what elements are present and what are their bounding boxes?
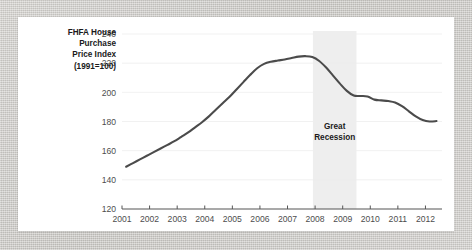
y-tick-label: 200 bbox=[102, 88, 117, 98]
x-tick-label: 2005 bbox=[223, 214, 242, 224]
x-axis-tick-labels: 2001200220032004200520062007200820092010… bbox=[112, 214, 435, 224]
x-tick-label: 2003 bbox=[168, 214, 187, 224]
y-tick-label: 140 bbox=[102, 175, 117, 185]
y-axis-title-line: Purchase bbox=[79, 39, 116, 48]
y-tick-label: 120 bbox=[102, 204, 117, 214]
chart-card: 120140160180200220240 200120022003200420… bbox=[18, 17, 454, 231]
screenshot-root: 120140160180200220240 200120022003200420… bbox=[0, 0, 472, 250]
y-tick-label: 160 bbox=[102, 146, 117, 156]
chart-plot-area: 120140160180200220240 200120022003200420… bbox=[18, 17, 454, 231]
x-tick-label: 2004 bbox=[195, 214, 214, 224]
y-axis-title: FHFA HousePurchasePrice Index(1991=100) bbox=[68, 28, 117, 71]
recession-label-line: Great bbox=[324, 122, 346, 131]
x-tick-label: 2009 bbox=[333, 214, 352, 224]
recession-band-group bbox=[313, 31, 357, 209]
x-tick-label: 2008 bbox=[306, 214, 325, 224]
index-series-line bbox=[126, 56, 436, 167]
recession-label-line: Recession bbox=[314, 133, 355, 142]
y-axis-title-line: Price Index bbox=[72, 50, 116, 59]
x-tick-label: 2012 bbox=[416, 214, 435, 224]
x-tick-label: 2002 bbox=[140, 214, 159, 224]
line-chart: 120140160180200220240 200120022003200420… bbox=[18, 17, 454, 231]
y-tick-label: 180 bbox=[102, 117, 117, 127]
x-tick-label: 2010 bbox=[361, 214, 380, 224]
x-tick-label: 2011 bbox=[389, 214, 408, 224]
x-tick-label: 2006 bbox=[250, 214, 269, 224]
gridlines-group bbox=[122, 34, 442, 180]
y-axis-title-line: FHFA House bbox=[68, 28, 117, 37]
y-axis-title-line: (1991=100) bbox=[74, 62, 116, 71]
x-tick-label: 2001 bbox=[112, 214, 131, 224]
recession-shaded-band bbox=[313, 31, 357, 209]
x-tick-label: 2007 bbox=[278, 214, 297, 224]
